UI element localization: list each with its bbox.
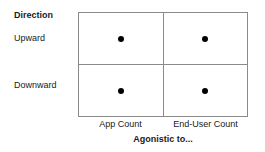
matrix-cell-downward-app-count — [79, 65, 164, 117]
filled-circle-icon — [118, 88, 124, 94]
matrix-grid — [78, 12, 248, 117]
column-label-end-user-count: End-User Count — [163, 119, 248, 130]
column-labels: App Count End-User Count — [78, 119, 248, 130]
column-label-app-count: App Count — [78, 119, 163, 130]
filled-circle-icon — [202, 88, 208, 94]
row-axis-title: Direction — [14, 10, 53, 21]
matrix-cell-downward-end-user-count — [164, 65, 249, 117]
filled-circle-icon — [202, 36, 208, 42]
row-label-upward: Upward — [14, 33, 45, 44]
row-label-downward: Downward — [14, 80, 57, 91]
filled-circle-icon — [118, 36, 124, 42]
matrix-cell-upward-app-count — [79, 13, 164, 65]
matrix-figure: Direction Upward Downward App Count End-… — [0, 0, 265, 152]
column-axis-title: Agonistic to... — [78, 134, 248, 145]
matrix-cell-upward-end-user-count — [164, 13, 249, 65]
